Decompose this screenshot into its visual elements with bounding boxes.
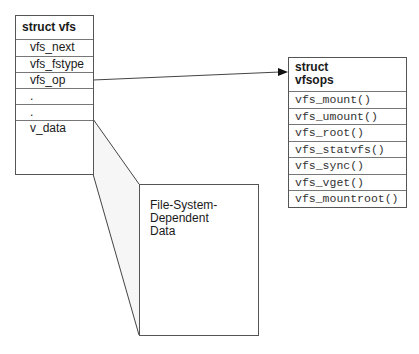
- struct-vfsops-title-line2: vfsops: [295, 74, 406, 87]
- field-ellipsis-2: .: [16, 104, 93, 120]
- fs-label-line3: Data: [150, 225, 250, 238]
- op-vfs-mount: vfs_mount(): [289, 91, 406, 108]
- op-vfs-root: vfs_root(): [289, 124, 406, 141]
- op-vfs-statvfs: vfs_statvfs(): [289, 141, 406, 157]
- vfs-op-pointer-line: [93, 72, 280, 80]
- field-v-data: v_data: [16, 120, 93, 175]
- struct-vfsops-title: struct vfsops: [289, 58, 406, 91]
- arrowhead-icon: [278, 68, 288, 76]
- struct-vfsops-box: struct vfsops vfs_mount() vfs_umount() v…: [288, 57, 407, 208]
- fs-dependent-data-label: File-System- Dependent Data: [150, 199, 250, 238]
- op-vfs-mountroot: vfs_mountroot(): [289, 190, 406, 208]
- op-vfs-umount: vfs_umount(): [289, 108, 406, 124]
- op-vfs-sync: vfs_sync(): [289, 157, 406, 174]
- field-vfs-op: vfs_op: [16, 72, 93, 88]
- field-vfs-fstype: vfs_fstype: [16, 56, 93, 72]
- field-ellipsis-1: .: [16, 88, 93, 104]
- op-vfs-vget: vfs_vget(): [289, 174, 406, 190]
- fs-dependent-data-box: File-System- Dependent Data: [139, 184, 259, 336]
- struct-vfs-box: struct vfs vfs_next vfs_fstype vfs_op . …: [15, 15, 94, 175]
- field-vfs-next: vfs_next: [16, 39, 93, 56]
- struct-vfs-title: struct vfs: [16, 16, 93, 39]
